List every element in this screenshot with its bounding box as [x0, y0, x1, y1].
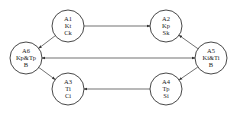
node-label: Kp&Tp [16, 54, 36, 61]
node-a3: A3TiCi [52, 73, 84, 105]
node-a2: A2KpSk [150, 10, 182, 42]
node-label: Ck [64, 29, 72, 36]
edge-a1-a6-arrow [39, 36, 56, 49]
state-transition-diagram: A1KtCkA2KpSkA3TiCiA4TpSiA5Ki&TiBA6Kp&TpB [0, 0, 239, 114]
node-label: Ci [65, 92, 71, 99]
node-label: Si [163, 92, 169, 99]
node-a5: A5Ki&TiB [195, 42, 227, 74]
node-label: Ki&Ti [202, 54, 219, 61]
node-label: B [209, 61, 214, 68]
edge-a5-a2-arrow [179, 35, 198, 48]
node-label: Tp [162, 85, 169, 92]
nodes: A1KtCkA2KpSkA3TiCiA4TpSiA5Ki&TiBA6Kp&TpB [10, 10, 227, 105]
node-label: Kp [162, 22, 170, 29]
node-a1: A1KtCk [52, 10, 84, 42]
node-a4: A4TpSi [150, 73, 182, 105]
node-a6: A6Kp&TpB [10, 42, 42, 74]
node-label: Sk [163, 29, 171, 36]
edge-a6-a3-arrow [39, 68, 55, 80]
node-label: A6 [22, 47, 31, 54]
node-label: A5 [207, 47, 215, 54]
edge-a5-a4-arrow [179, 67, 198, 80]
node-label: A3 [64, 78, 72, 85]
node-label: A1 [64, 15, 72, 22]
node-label: Kt [65, 22, 72, 29]
node-label: A4 [162, 78, 171, 85]
node-label: Ti [65, 85, 71, 92]
node-label: A2 [162, 15, 170, 22]
node-label: B [24, 61, 29, 68]
